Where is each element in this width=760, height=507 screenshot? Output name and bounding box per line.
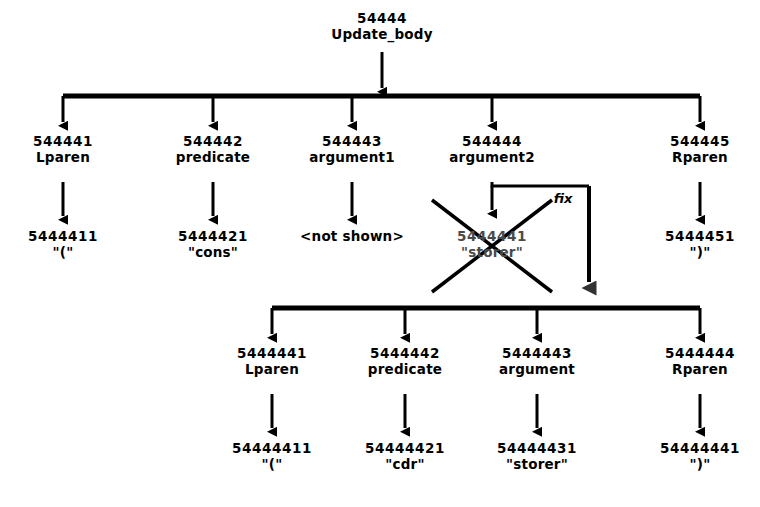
tree-edges bbox=[0, 0, 760, 507]
node-lower-argument-code: 5444443 bbox=[499, 345, 575, 361]
node-lower-lparen-code: 5444441 bbox=[237, 345, 307, 361]
node-lower-rparen-label: Rparen bbox=[665, 361, 735, 377]
node-upper-predicate-label: predicate bbox=[176, 149, 250, 165]
node-upper-argument2: 544444 argument2 bbox=[449, 133, 535, 166]
node-upper-predicate-code: 544442 bbox=[176, 133, 250, 149]
node-leaf-storer-replaced: 5444441 "storer" bbox=[457, 228, 527, 261]
node-lower-leaf-close-paren: 54444441 ")" bbox=[660, 440, 740, 473]
node-lower-lparen-label: Lparen bbox=[237, 361, 307, 377]
edge-label-fix: fix bbox=[554, 191, 573, 206]
node-lower-predicate: 5444442 predicate bbox=[368, 345, 442, 378]
node-lower-leaf-storer-code: 54444431 bbox=[497, 440, 577, 456]
node-upper-argument1: 544443 argument1 bbox=[309, 133, 395, 166]
node-upper-lparen-code: 544441 bbox=[33, 133, 93, 149]
node-upper-predicate: 544442 predicate bbox=[176, 133, 250, 166]
node-lower-lparen: 5444441 Lparen bbox=[237, 345, 307, 378]
node-root: 54444 Update_body bbox=[331, 10, 432, 43]
node-leaf-close-paren-code: 5444451 bbox=[665, 228, 735, 244]
node-upper-argument2-label: argument2 bbox=[449, 149, 535, 165]
node-leaf-cons-label: "cons" bbox=[178, 244, 248, 260]
node-upper-argument2-code: 544444 bbox=[449, 133, 535, 149]
node-leaf-open-paren-code: 5444411 bbox=[28, 228, 98, 244]
node-lower-predicate-label: predicate bbox=[368, 361, 442, 377]
node-lower-leaf-storer-label: "storer" bbox=[497, 456, 577, 472]
node-upper-rparen: 544445 Rparen bbox=[670, 133, 730, 166]
node-lower-leaf-cdr-label: "cdr" bbox=[365, 456, 445, 472]
node-lower-leaf-open-paren-code: 54444411 bbox=[232, 440, 312, 456]
node-lower-rparen-code: 5444444 bbox=[665, 345, 735, 361]
node-lower-leaf-storer: 54444431 "storer" bbox=[497, 440, 577, 473]
node-upper-rparen-code: 544445 bbox=[670, 133, 730, 149]
node-lower-leaf-open-paren: 54444411 "(" bbox=[232, 440, 312, 473]
node-leaf-storer-replaced-code: 5444441 bbox=[457, 228, 527, 244]
node-leaf-not-shown-label: <not shown> bbox=[300, 228, 404, 244]
node-lower-leaf-close-paren-code: 54444441 bbox=[660, 440, 740, 456]
node-leaf-not-shown: <not shown> bbox=[300, 228, 404, 244]
node-leaf-open-paren: 5444411 "(" bbox=[28, 228, 98, 261]
node-upper-argument1-label: argument1 bbox=[309, 149, 395, 165]
node-leaf-close-paren: 5444451 ")" bbox=[665, 228, 735, 261]
node-root-code: 54444 bbox=[331, 10, 432, 26]
node-lower-argument: 5444443 argument bbox=[499, 345, 575, 378]
node-lower-rparen: 5444444 Rparen bbox=[665, 345, 735, 378]
node-upper-lparen: 544441 Lparen bbox=[33, 133, 93, 166]
node-leaf-storer-replaced-label: "storer" bbox=[457, 244, 527, 260]
node-leaf-close-paren-label: ")" bbox=[665, 244, 735, 260]
node-lower-leaf-open-paren-label: "(" bbox=[232, 456, 312, 472]
node-root-label: Update_body bbox=[331, 26, 432, 42]
node-leaf-open-paren-label: "(" bbox=[28, 244, 98, 260]
node-lower-predicate-code: 5444442 bbox=[368, 345, 442, 361]
node-upper-argument1-code: 544443 bbox=[309, 133, 395, 149]
node-leaf-cons: 5444421 "cons" bbox=[178, 228, 248, 261]
node-lower-leaf-cdr-code: 54444421 bbox=[365, 440, 445, 456]
node-leaf-cons-code: 5444421 bbox=[178, 228, 248, 244]
node-lower-argument-label: argument bbox=[499, 361, 575, 377]
node-lower-leaf-cdr: 54444421 "cdr" bbox=[365, 440, 445, 473]
node-upper-rparen-label: Rparen bbox=[670, 149, 730, 165]
parse-tree-diagram: 54444 Update_body 544441 Lparen 544442 p… bbox=[0, 0, 760, 507]
node-lower-leaf-close-paren-label: ")" bbox=[660, 456, 740, 472]
node-upper-lparen-label: Lparen bbox=[33, 149, 93, 165]
